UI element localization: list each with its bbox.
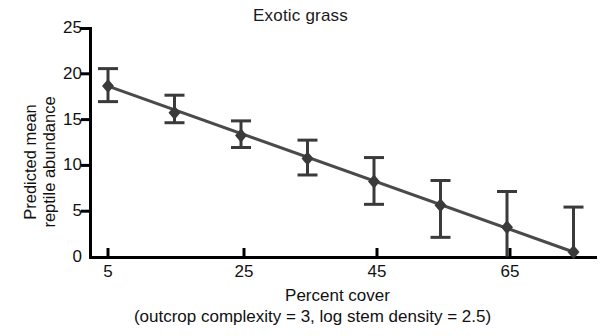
data-point-marker	[368, 174, 380, 188]
data-point-marker	[102, 79, 114, 93]
data-point-marker	[302, 151, 314, 165]
plot-area	[0, 0, 601, 336]
axes	[80, 27, 597, 258]
chart-figure: Exotic grass Predicted mean reptile abun…	[0, 0, 601, 336]
data-point-marker	[435, 198, 447, 212]
data-point-marker	[501, 220, 513, 234]
data-series	[98, 69, 584, 259]
